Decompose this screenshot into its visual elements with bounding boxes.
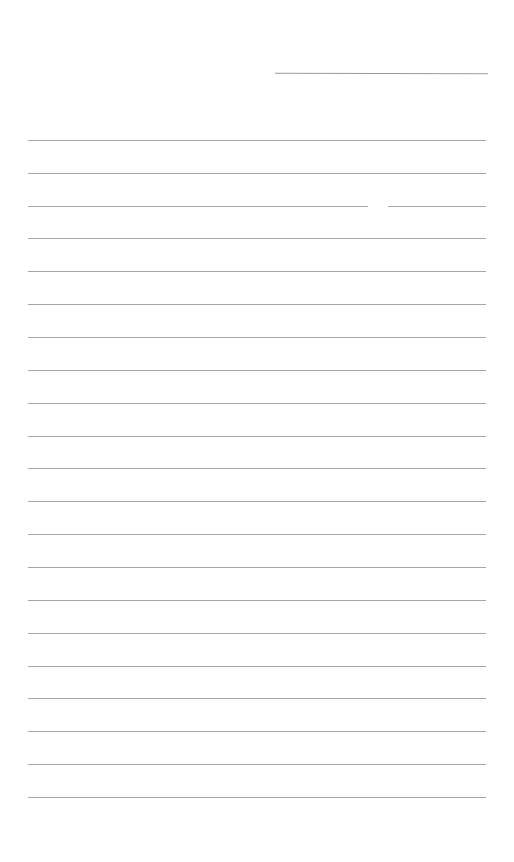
header-name-line — [275, 73, 488, 75]
ruled-line — [28, 370, 486, 371]
ruled-line — [28, 173, 486, 174]
ruled-line — [28, 403, 486, 404]
ruled-line — [28, 764, 486, 765]
ruled-line — [28, 600, 486, 601]
ruled-line — [28, 436, 486, 437]
ruled-line — [28, 468, 486, 469]
ruled-line — [28, 271, 486, 272]
ruled-line — [28, 731, 486, 732]
ruled-line — [28, 698, 486, 699]
ruled-line — [28, 797, 486, 798]
ruled-line — [28, 238, 486, 239]
ruled-line — [28, 633, 486, 634]
ruled-line — [28, 501, 486, 502]
ruled-line — [28, 206, 486, 207]
ruled-line — [28, 337, 486, 338]
ruled-line — [28, 140, 486, 141]
ruled-line — [28, 567, 486, 568]
ruled-line — [28, 534, 486, 535]
ruled-line — [28, 304, 486, 305]
ruled-line — [28, 666, 486, 667]
